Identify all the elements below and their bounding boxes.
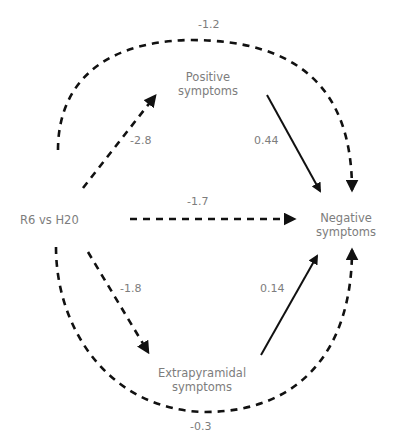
edge-to-extrapyramidal — [88, 252, 148, 352]
node-positive-line1: Positive — [172, 70, 244, 84]
node-extrapyramidal-symptoms: Extrapyramidal symptoms — [150, 366, 254, 394]
node-negative-symptoms: Negative symptoms — [310, 211, 382, 239]
coef-bottom-arc: -0.3 — [190, 420, 211, 433]
node-extrapyramidal-line1: Extrapyramidal — [150, 366, 254, 380]
node-negative-line2: symptoms — [310, 225, 382, 239]
node-exposure-label: R6 vs H20 — [20, 213, 79, 227]
node-positive-line2: symptoms — [172, 84, 244, 98]
node-exposure: R6 vs H20 — [20, 213, 79, 227]
coef-to-positive: -2.8 — [130, 134, 151, 147]
node-extrapyramidal-line2: symptoms — [150, 380, 254, 394]
coef-to-extrapyramidal: -1.8 — [120, 282, 141, 295]
edge-extrapyramidal-to-negative — [261, 256, 317, 355]
node-positive-symptoms: Positive symptoms — [172, 70, 244, 98]
coef-top-arc: -1.2 — [198, 18, 219, 31]
coef-positive-to-negative: 0.44 — [254, 134, 279, 147]
coef-extrapyramidal-to-negative: 0.14 — [260, 282, 285, 295]
node-negative-line1: Negative — [310, 211, 382, 225]
coef-direct: -1.7 — [187, 195, 208, 208]
